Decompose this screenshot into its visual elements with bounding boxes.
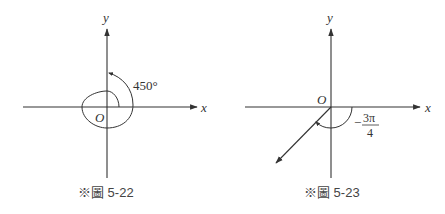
terminal-ray [276, 107, 331, 163]
angle-denominator: 4 [367, 126, 373, 140]
figure-caption: ※圖 5-22 [78, 185, 134, 200]
y-axis-label: y [101, 10, 109, 25]
figure-5-22: x y O 450° ※圖 5-22 [23, 10, 207, 200]
figure-5-23: x y O − 3π 4 ※圖 5-23 [245, 10, 431, 200]
y-axis-label: y [325, 10, 333, 25]
angle-label: − 3π 4 [354, 111, 379, 140]
figure-caption: ※圖 5-23 [304, 185, 360, 200]
x-axis-label: x [424, 100, 431, 115]
origin-label: O [95, 110, 105, 125]
origin-label: O [317, 92, 327, 107]
angle-label: 450° [133, 78, 158, 93]
angle-sign: − [354, 115, 361, 130]
diagram-canvas: x y O 450° ※圖 5-22 x y O − 3π 4 ※圖 5-23 [0, 0, 445, 214]
x-axis-label: x [200, 100, 207, 115]
angle-numerator: 3π [363, 111, 375, 125]
